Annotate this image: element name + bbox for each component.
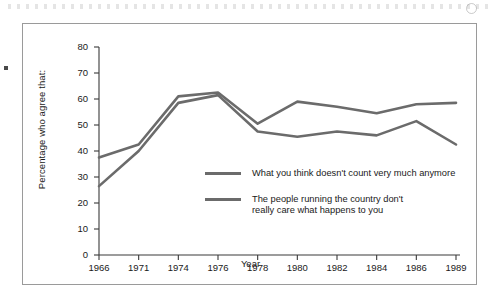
legend-label: What you think doesn't count very much a…: [252, 168, 455, 180]
chart-legend: What you think doesn't count very much a…: [205, 168, 473, 231]
legend-label: The people running the country don't rea…: [252, 194, 403, 217]
legend-swatch-icon: [205, 172, 241, 175]
chart-plot-svg: [23, 24, 478, 286]
scan-artifact-corner-mark: [466, 3, 477, 14]
scan-artifact-margin-dot: [4, 66, 8, 70]
legend-item: What you think doesn't count very much a…: [205, 168, 473, 180]
legend-item: The people running the country don't rea…: [205, 194, 473, 217]
plot-area: Percentage who agree that: Year 01020304…: [23, 24, 478, 286]
legend-swatch-icon: [205, 198, 241, 201]
figure-frame: Percentage who agree that: Year 01020304…: [22, 23, 477, 285]
scan-artifact-top-edge: [8, 4, 488, 9]
